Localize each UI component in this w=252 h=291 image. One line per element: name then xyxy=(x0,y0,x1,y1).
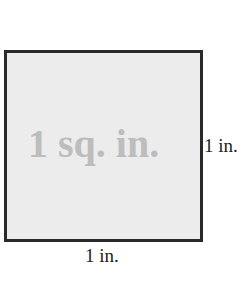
area-label: 1 sq. in. xyxy=(28,120,198,167)
height-label: 1 in. xyxy=(204,135,238,157)
width-label: 1 in. xyxy=(85,245,119,267)
